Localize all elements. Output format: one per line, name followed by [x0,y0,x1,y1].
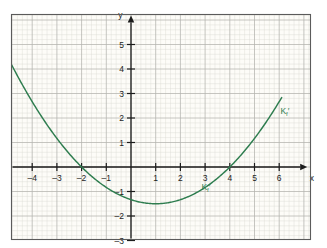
y-axis-tick-label: –3 [115,236,125,246]
x-axis-tick-label: 4 [227,173,232,183]
coordinate-plot: –4–3–2–112345654321–1–2–3xyKf′Kf′ [0,0,327,248]
x-axis-tick-label: –2 [77,173,87,183]
x-axis-tick-label: 3 [203,173,208,183]
curve-label-lower-middle: Kf′ [201,182,210,193]
x-axis-tick-label: 6 [277,173,282,183]
x-axis-tick-label: 2 [178,173,183,183]
y-axis-tick-label: –2 [115,211,125,221]
plot-background [12,15,311,240]
x-axis-tick-label: 5 [252,173,257,183]
x-axis-tick-label: 1 [153,173,158,183]
graph-figure: –4–3–2–112345654321–1–2–3xyKf′Kf′ [0,0,327,248]
y-axis-tick-label: 3 [119,89,124,99]
x-axis-tick-label: –4 [27,173,37,183]
y-axis-tick-label: 5 [119,40,124,50]
curve-label-upper-right: Kf′ [280,106,289,117]
y-axis-tick-label: 2 [119,113,124,123]
y-axis-tick-label: 1 [119,138,124,148]
y-axis-tick-label: 4 [119,64,124,74]
x-axis-tick-label: –3 [52,173,62,183]
x-axis-tick-label: –1 [102,173,112,183]
